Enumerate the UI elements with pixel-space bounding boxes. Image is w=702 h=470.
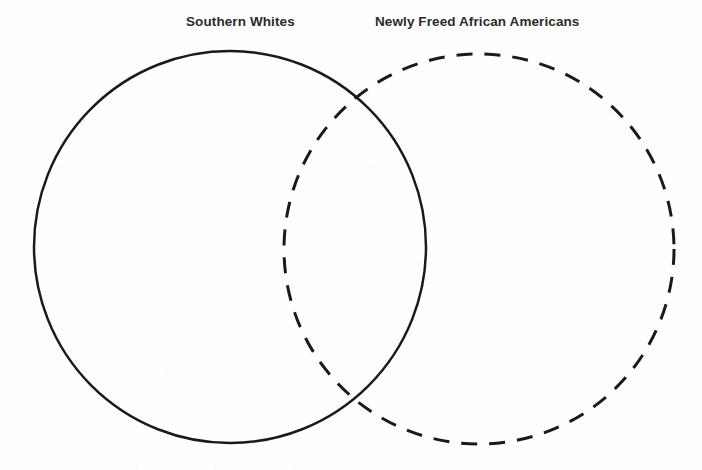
venn-diagram-canvas: Southern Whites Newly Freed African Amer… — [0, 0, 702, 470]
venn-circle-southern-whites[interactable] — [34, 51, 426, 443]
venn-label-southern-whites: Southern Whites — [186, 15, 295, 29]
venn-label-newly-freed-african-americans: Newly Freed African Americans — [375, 15, 579, 29]
venn-circle-newly-freed-african-americans[interactable] — [284, 54, 674, 444]
venn-diagram-svg — [0, 0, 702, 470]
